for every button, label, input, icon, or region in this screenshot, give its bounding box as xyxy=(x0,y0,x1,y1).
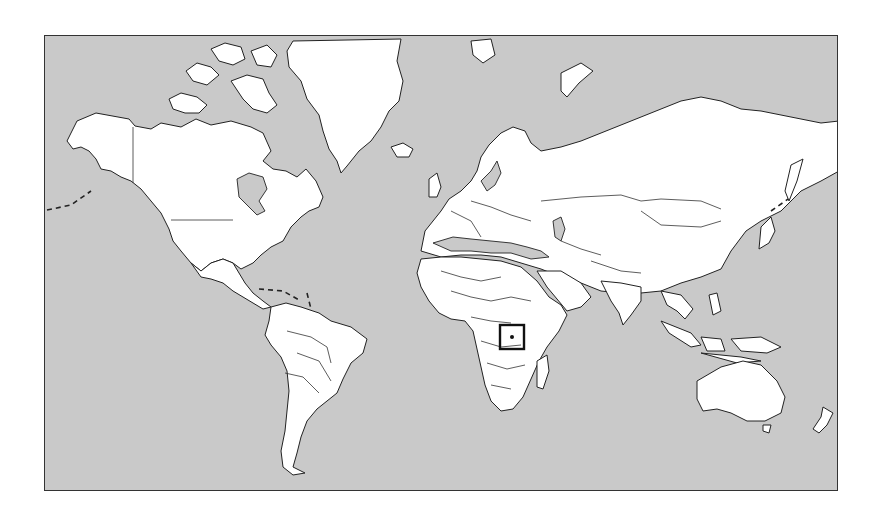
new-zealand xyxy=(813,407,833,433)
philippines xyxy=(709,293,721,315)
south-america xyxy=(265,303,367,475)
svalbard xyxy=(471,39,495,63)
greenland xyxy=(287,39,403,173)
japan xyxy=(759,217,775,249)
novaya-zemlya xyxy=(561,63,593,97)
arctic-islands xyxy=(169,43,277,113)
highlight-marker xyxy=(510,335,514,339)
map-svg xyxy=(45,36,838,491)
north-america xyxy=(67,113,323,271)
aleutian-islands xyxy=(47,191,91,210)
iceland xyxy=(391,143,413,157)
india xyxy=(601,281,641,325)
indochina xyxy=(661,291,693,319)
indonesia xyxy=(661,321,781,363)
tasmania xyxy=(763,425,771,433)
uk xyxy=(429,173,441,197)
world-map xyxy=(44,35,838,491)
australia xyxy=(697,361,785,421)
madagascar xyxy=(537,355,549,389)
